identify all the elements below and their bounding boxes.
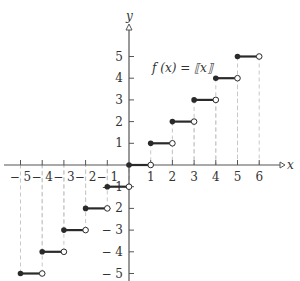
closed-endpoint [61, 227, 67, 233]
y-tick-label: 3 [115, 93, 123, 107]
x-tick-label: − 4 [31, 170, 53, 184]
x-tick-label: 4 [212, 170, 220, 184]
open-endpoint [61, 249, 67, 255]
open-endpoint [170, 141, 176, 147]
x-tick-label: 1 [147, 170, 155, 184]
y-axis-arrow-icon [126, 24, 132, 30]
y-tick-label: 2 [115, 115, 123, 129]
closed-endpoint [235, 54, 241, 60]
closed-endpoint [83, 206, 89, 212]
x-tick-label: − 3 [53, 170, 75, 184]
closed-endpoint [39, 249, 45, 255]
open-endpoint [126, 184, 132, 190]
x-axis-label: x [287, 158, 294, 172]
open-endpoint [105, 206, 111, 212]
y-tick-label: 4 [115, 71, 123, 85]
x-tick-label: − 5 [10, 170, 32, 184]
y-tick-label: − 3 [101, 223, 123, 237]
step-function-chart: − 5− 4− 3− 2− 112345654321− 1− 2− 3− 4− … [0, 0, 300, 281]
x-tick-label: 3 [190, 170, 198, 184]
open-endpoint [148, 162, 154, 168]
closed-endpoint [148, 141, 154, 147]
closed-endpoint [213, 75, 219, 81]
x-tick-label: 6 [255, 170, 263, 184]
y-tick-label: − 4 [101, 245, 123, 259]
y-tick-label: 1 [115, 136, 123, 150]
open-endpoint [256, 54, 262, 60]
y-tick-label: − 5 [101, 267, 123, 281]
y-axis-label: y [125, 9, 133, 23]
open-endpoint [191, 119, 197, 125]
open-endpoint [235, 75, 241, 81]
closed-endpoint [18, 271, 24, 277]
closed-endpoint [126, 162, 132, 168]
closed-endpoint [170, 119, 176, 125]
x-tick-label: − 2 [75, 170, 97, 184]
axes [4, 24, 285, 281]
x-tick-label: 2 [169, 170, 177, 184]
open-endpoint [83, 227, 89, 233]
function-label: f (x) = ⟦x⟧ [151, 61, 215, 75]
x-axis-arrow-icon [280, 162, 285, 168]
open-endpoint [39, 271, 45, 277]
closed-endpoint [191, 97, 197, 103]
closed-endpoint [105, 184, 111, 190]
open-endpoint [213, 97, 219, 103]
x-tick-label: 5 [234, 170, 242, 184]
y-tick-label: 5 [115, 50, 123, 64]
